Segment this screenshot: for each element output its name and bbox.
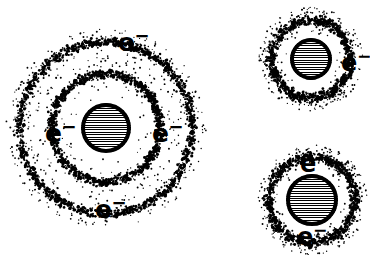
electron-symbol: e — [297, 223, 313, 251]
negative-charge-superscript: − — [313, 220, 327, 240]
nucleus — [286, 174, 338, 226]
small-atom-bottom-right: e−e− — [0, 0, 370, 255]
negative-charge-superscript: − — [316, 147, 330, 167]
electron-label-bottom: e− — [297, 222, 327, 249]
atom-diagram-figure: e−e−e−e−e−e−e− — [0, 0, 370, 255]
electron-label-top: e− — [300, 149, 330, 176]
electron-symbol: e — [300, 150, 316, 178]
